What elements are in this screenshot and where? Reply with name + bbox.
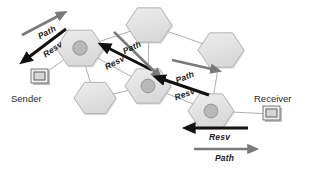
monitor-screen xyxy=(34,72,45,80)
monitor-screen xyxy=(266,109,277,117)
network-node[interactable] xyxy=(126,8,173,44)
router-circle-icon xyxy=(73,41,87,55)
sender-computer-icon[interactable] xyxy=(31,69,50,85)
receiver-computer-icon[interactable] xyxy=(263,106,282,122)
network-node[interactable] xyxy=(198,33,245,69)
router-node[interactable] xyxy=(188,94,235,130)
arrow-path-bottom-label: Path xyxy=(215,153,234,163)
network-node[interactable] xyxy=(74,82,117,115)
arrow-resv-bottom-label: Resv xyxy=(209,132,230,142)
router-node[interactable] xyxy=(56,30,105,67)
rsvp-network-diagram: PathResvPathResvPathResvResvPath SenderR… xyxy=(0,0,311,172)
router-node[interactable] xyxy=(125,69,172,105)
router-circle-icon xyxy=(204,104,218,118)
sender-label: Sender xyxy=(11,93,42,104)
router-circle-icon xyxy=(141,79,155,93)
receiver-label: Receiver xyxy=(254,93,292,104)
